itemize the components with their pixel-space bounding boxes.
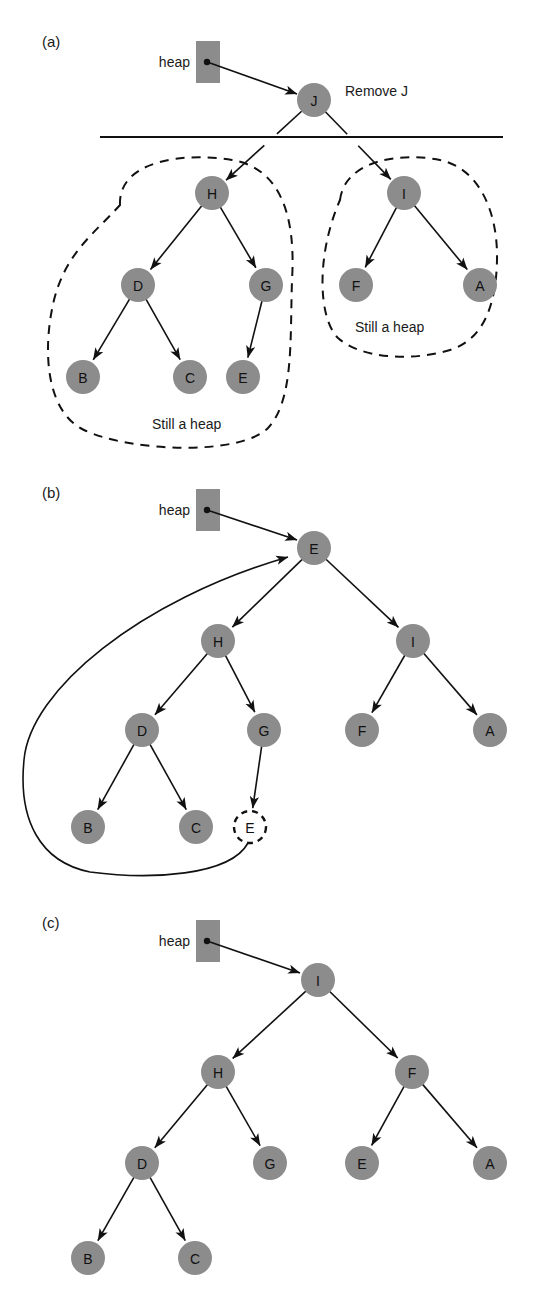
node-c-B[interactable]: B (71, 1241, 105, 1275)
node-c-H[interactable]: H (201, 1055, 235, 1089)
node-label: F (358, 723, 367, 739)
node-label: J (311, 93, 318, 109)
node-label: G (259, 723, 270, 739)
node-label: A (475, 278, 485, 294)
panel-label-c: (c) (42, 914, 60, 931)
node-label: C (191, 820, 201, 836)
node-label: F (408, 1065, 417, 1081)
node-b-F[interactable]: F (345, 713, 379, 747)
heap-pointer-label: heap (159, 54, 190, 70)
node-label: D (137, 723, 147, 739)
node-a-C[interactable]: C (173, 360, 207, 394)
node-label: E (357, 1156, 366, 1172)
node-label: C (190, 1251, 200, 1267)
node-a-E[interactable]: E (226, 360, 260, 394)
node-label: E (309, 541, 318, 557)
remove-j-label: Remove J (345, 83, 408, 99)
node-label: I (411, 634, 415, 650)
node-label: D (133, 278, 143, 294)
node-b-D[interactable]: D (125, 713, 159, 747)
heap-pointer-label: heap (159, 933, 190, 949)
node-c-D[interactable]: D (125, 1146, 159, 1180)
still-a-heap-left-label: Still a heap (152, 416, 221, 432)
node-label: I (402, 186, 406, 202)
node-b-I[interactable]: I (396, 624, 430, 658)
node-label: H (207, 186, 217, 202)
node-a-G[interactable]: G (249, 268, 283, 302)
node-c-A[interactable]: A (473, 1146, 507, 1180)
node-label: D (137, 1156, 147, 1172)
panel-label-a: (a) (42, 33, 60, 50)
node-b-G[interactable]: G (247, 713, 281, 747)
node-b-H[interactable]: H (201, 624, 235, 658)
heap-pointer-dot (204, 507, 210, 513)
node-label: B (83, 1251, 92, 1267)
node-label: I (316, 973, 320, 989)
node-c-C[interactable]: C (178, 1241, 212, 1275)
panel-label-b: (b) (42, 484, 60, 501)
node-a-I[interactable]: I (387, 176, 421, 210)
node-a-J[interactable]: J (297, 83, 331, 117)
node-label: F (352, 278, 361, 294)
node-a-F[interactable]: F (339, 268, 373, 302)
node-c-G[interactable]: G (253, 1146, 287, 1180)
node-label: H (213, 634, 223, 650)
node-b-E_leaf[interactable]: E (234, 811, 266, 843)
node-a-H[interactable]: H (195, 176, 229, 210)
heap-pointer-dot (204, 938, 210, 944)
node-label: B (83, 820, 92, 836)
figure-background (0, 0, 551, 1308)
node-b-B[interactable]: B (71, 810, 105, 844)
node-c-I[interactable]: I (301, 963, 335, 997)
node-label: G (261, 278, 272, 294)
node-label: C (185, 370, 195, 386)
node-c-E[interactable]: E (345, 1146, 379, 1180)
node-label: E (245, 820, 254, 836)
node-b-E_root[interactable]: E (297, 531, 331, 565)
node-label: H (213, 1065, 223, 1081)
node-label: G (265, 1156, 276, 1172)
node-a-B[interactable]: B (66, 360, 100, 394)
heap-removal-figure: (a)heapJHIDGFABCERemove JStill a heapSti… (0, 0, 551, 1308)
node-label: B (78, 370, 87, 386)
node-b-A[interactable]: A (473, 713, 507, 747)
heap-pointer-dot (204, 59, 210, 65)
still-a-heap-right-label: Still a heap (355, 319, 424, 335)
node-label: E (238, 370, 247, 386)
node-b-C[interactable]: C (179, 810, 213, 844)
heap-pointer-label: heap (159, 502, 190, 518)
node-label: A (485, 723, 495, 739)
node-label: A (485, 1156, 495, 1172)
node-a-D[interactable]: D (121, 268, 155, 302)
node-c-F[interactable]: F (395, 1055, 429, 1089)
node-a-A[interactable]: A (463, 268, 497, 302)
